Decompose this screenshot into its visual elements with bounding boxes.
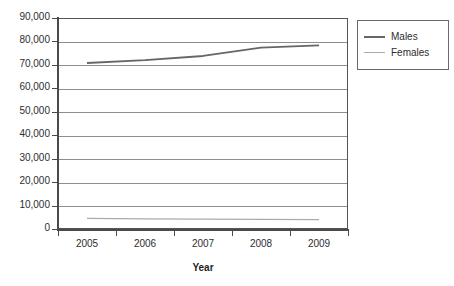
y-tick-label: 60,000: [0, 81, 50, 92]
y-tick-label: 0: [0, 222, 50, 233]
x-tick-mark: [290, 231, 291, 236]
y-tick-label: 50,000: [0, 105, 50, 116]
y-tick-label: 40,000: [0, 128, 50, 139]
series-line-females: [87, 218, 319, 219]
y-tick-label: 20,000: [0, 175, 50, 186]
legend-swatch-line-icon: [364, 52, 385, 53]
legend-label: Females: [391, 47, 429, 58]
x-tick-mark: [174, 231, 175, 236]
x-tick-label: 2008: [231, 238, 291, 249]
x-tick-mark: [348, 231, 349, 236]
legend-item-males[interactable]: Males: [364, 29, 442, 44]
legend-item-females[interactable]: Females: [364, 45, 442, 60]
legend-label: Males: [391, 31, 418, 42]
x-tick-label: 2007: [173, 238, 233, 249]
chart-legend: MalesFemales: [357, 20, 449, 70]
y-tick-mark: [52, 229, 58, 230]
x-axis-title: Year: [58, 262, 348, 273]
x-tick-mark: [116, 231, 117, 236]
series-layer: [58, 18, 348, 229]
chart-screenshot: 010,00020,00030,00040,00050,00060,00070,…: [0, 0, 454, 286]
x-tick-label: 2006: [115, 238, 175, 249]
x-tick-mark: [58, 231, 59, 236]
y-tick-label: 10,000: [0, 199, 50, 210]
y-tick-label: 90,000: [0, 11, 50, 22]
x-axis-line: [57, 229, 349, 231]
series-line-males: [87, 45, 319, 63]
x-tick-mark: [232, 231, 233, 236]
y-tick-label: 30,000: [0, 152, 50, 163]
x-tick-label: 2009: [289, 238, 349, 249]
y-tick-label: 70,000: [0, 58, 50, 69]
y-tick-label: 80,000: [0, 34, 50, 45]
legend-swatch-line-icon: [364, 36, 385, 38]
x-tick-label: 2005: [57, 238, 117, 249]
